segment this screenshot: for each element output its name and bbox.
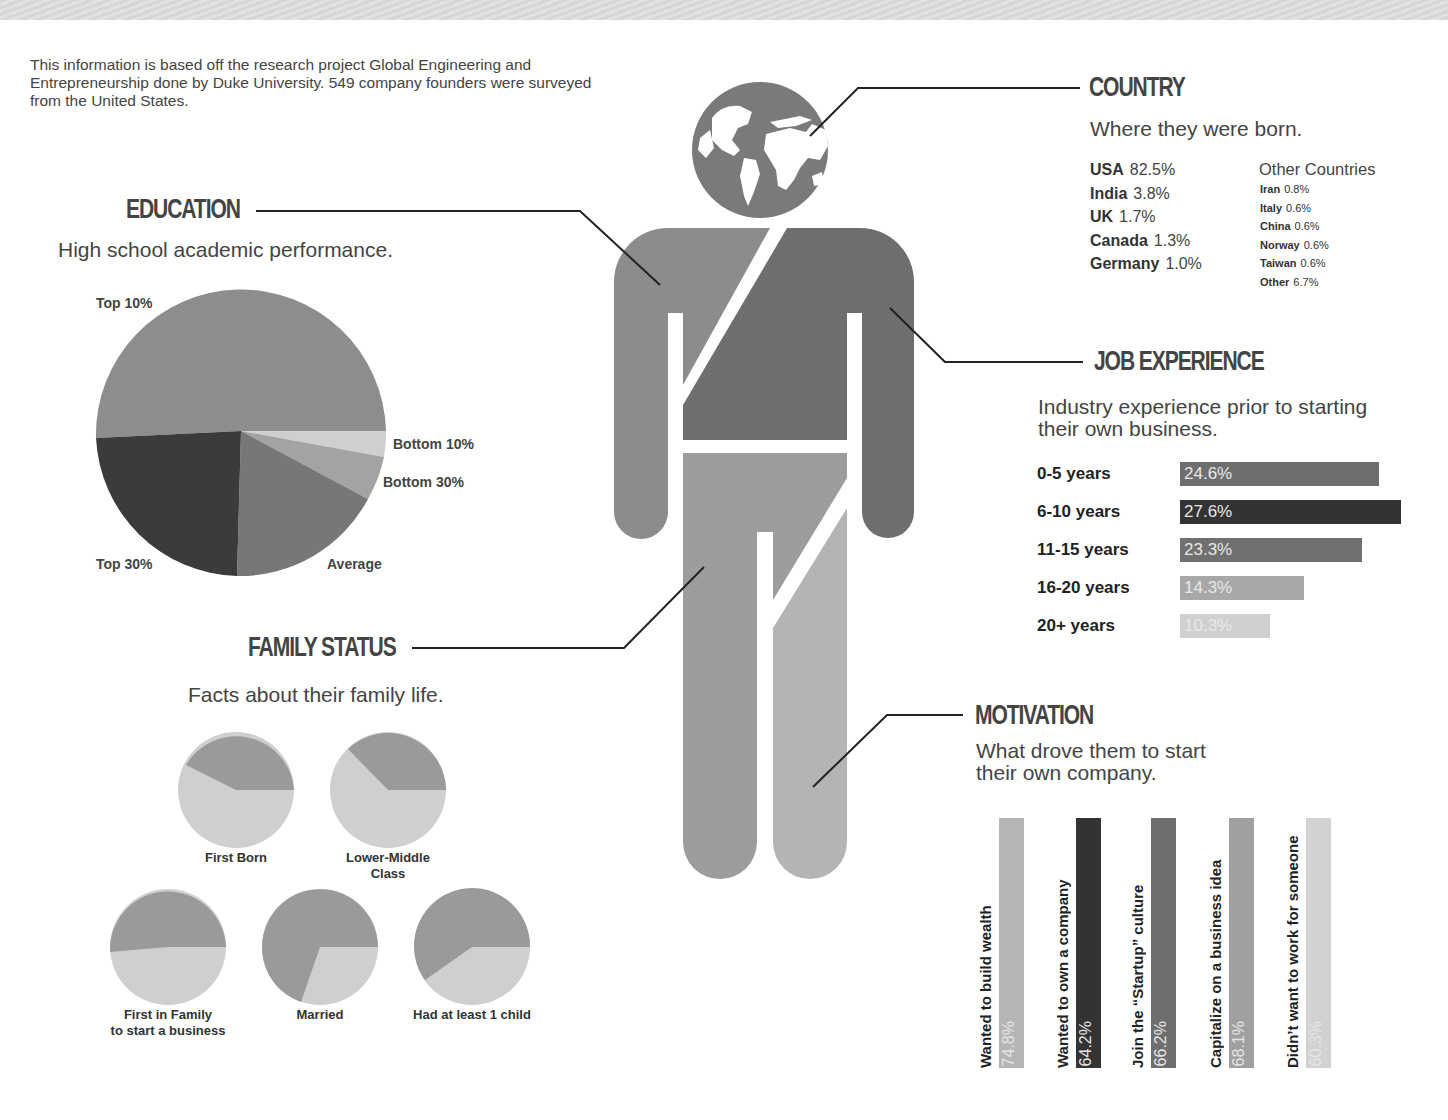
- motivation-bar-business-idea: 68.1%: [1229, 818, 1254, 1068]
- job-bar: 27.6%: [1180, 500, 1401, 524]
- subtitle-line: their own company.: [976, 762, 1206, 784]
- country-value: 6.7%: [1293, 276, 1318, 288]
- country-main-list: USA82.5% India3.8% UK1.7% Canada1.3% Ger…: [1090, 158, 1202, 276]
- country-value: 0.6%: [1295, 220, 1320, 232]
- label-line: to start a business: [98, 1023, 238, 1039]
- pie-lower-middle-class: [330, 732, 446, 848]
- country-name: Canada: [1090, 232, 1148, 249]
- job-row-label: 11-15 years: [1037, 540, 1129, 560]
- subtitle-line: Industry experience prior to starting: [1038, 396, 1367, 418]
- education-pie-chart: [96, 290, 386, 577]
- motivation-bar-wealth: 74.8%: [999, 818, 1024, 1068]
- country-row: Iran0.8%: [1260, 180, 1329, 199]
- country-name: Taiwan: [1260, 257, 1296, 269]
- job-bar-value: 14.3%: [1184, 578, 1232, 598]
- motivation-bar-own-company: 64.2%: [1076, 818, 1101, 1068]
- motivation-bar-value: 68.1%: [1230, 1021, 1248, 1066]
- family-label-lower-middle: Lower-Middle Class: [318, 850, 458, 882]
- motivation-bar-startup-culture: 66.2%: [1151, 818, 1176, 1068]
- motivation-heading: MOTIVATION: [975, 700, 1093, 731]
- motivation-bar-value: 66.2%: [1152, 1021, 1170, 1066]
- country-row: Canada1.3%: [1090, 229, 1202, 253]
- country-value: 1.3%: [1154, 232, 1190, 249]
- motivation-label: Didn’t want to work for someone: [1284, 818, 1301, 1068]
- country-name: UK: [1090, 208, 1113, 225]
- motivation-bar-value: 60.3%: [1307, 1021, 1325, 1066]
- motivation-subtitle: What drove them to start their own compa…: [976, 740, 1206, 784]
- country-heading: COUNTRY: [1089, 72, 1185, 103]
- family-label-first-in-family: First in Family to start a business: [98, 1007, 238, 1039]
- motivation-bar-value: 64.2%: [1077, 1021, 1095, 1066]
- job-bar-value: 27.6%: [1184, 502, 1232, 522]
- country-name: China: [1260, 220, 1291, 232]
- job-bar: 23.3%: [1180, 538, 1362, 562]
- motivation-label: Wanted to own a company: [1054, 818, 1071, 1068]
- motivation-label: Join the “Startup” culture: [1129, 818, 1146, 1068]
- country-value: 0.6%: [1286, 202, 1311, 214]
- country-value: 3.8%: [1133, 185, 1169, 202]
- country-name: Italy: [1260, 202, 1282, 214]
- job-row-label: 6-10 years: [1037, 502, 1120, 522]
- country-row: Italy0.6%: [1260, 199, 1329, 218]
- pie-married: [262, 889, 378, 1005]
- country-name: USA: [1090, 161, 1124, 178]
- label-line: Class: [318, 866, 458, 882]
- subtitle-line: What drove them to start: [976, 740, 1206, 762]
- subtitle-line: their own business.: [1038, 418, 1367, 440]
- country-name: Other: [1260, 276, 1289, 288]
- motivation-bar-no-boss: 60.3%: [1306, 818, 1331, 1068]
- pie-label-average: Average: [327, 556, 382, 572]
- motivation-label: Capitalize on a business idea: [1207, 818, 1224, 1068]
- job-bar-value: 23.3%: [1184, 540, 1232, 560]
- job-row-label: 16-20 years: [1037, 578, 1130, 598]
- country-subtitle: Where they were born.: [1090, 118, 1302, 140]
- job-bar-value: 24.6%: [1184, 464, 1232, 484]
- country-row: UK1.7%: [1090, 205, 1202, 229]
- country-value: 1.0%: [1165, 255, 1201, 272]
- job-heading: JOB EXPERIENCE: [1094, 346, 1264, 377]
- family-label-had-child: Had at least 1 child: [400, 1007, 544, 1023]
- country-row: Germany1.0%: [1090, 252, 1202, 276]
- family-label-married: Married: [270, 1007, 370, 1023]
- country-name: Norway: [1260, 239, 1300, 251]
- country-connector: [810, 88, 1080, 136]
- education-subtitle: High school academic performance.: [58, 239, 393, 261]
- globe-icon: [692, 82, 828, 218]
- country-name: Germany: [1090, 255, 1159, 272]
- country-row: India3.8%: [1090, 182, 1202, 206]
- family-subtitle: Facts about their family life.: [188, 684, 444, 706]
- country-row: Taiwan0.6%: [1260, 254, 1329, 273]
- country-value: 0.8%: [1284, 183, 1309, 195]
- family-heading: FAMILY STATUS: [248, 632, 396, 663]
- pie-label-top30: Top 30%: [96, 556, 153, 572]
- job-bar: 14.3%: [1180, 576, 1304, 600]
- family-label-first-born: First Born: [176, 850, 296, 866]
- job-bar: 10.3%: [1180, 614, 1270, 638]
- label-line: First in Family: [98, 1007, 238, 1023]
- job-row-label: 20+ years: [1037, 616, 1115, 636]
- label-line: Lower-Middle: [318, 850, 458, 866]
- pie-had-child: [414, 888, 530, 1005]
- country-row: Other6.7%: [1260, 273, 1329, 292]
- education-heading: EDUCATION: [126, 194, 240, 225]
- other-countries-title: Other Countries: [1259, 160, 1375, 179]
- job-bar: 24.6%: [1180, 462, 1379, 486]
- country-name: Iran: [1260, 183, 1280, 195]
- job-row-label: 0-5 years: [1037, 464, 1111, 484]
- job-subtitle: Industry experience prior to starting th…: [1038, 396, 1367, 440]
- pie-first-in-family: [110, 889, 226, 1005]
- country-value: 0.6%: [1304, 239, 1329, 251]
- country-row: China0.6%: [1260, 217, 1329, 236]
- pie-label-bottom10: Bottom 10%: [393, 436, 474, 452]
- pie-first-born: [178, 732, 294, 848]
- country-value: 82.5%: [1130, 161, 1175, 178]
- person-figure: [600, 220, 930, 880]
- country-row: USA82.5%: [1090, 158, 1202, 182]
- country-row: Norway0.6%: [1260, 236, 1329, 255]
- country-name: India: [1090, 185, 1127, 202]
- motivation-bar-value: 74.8%: [1000, 1021, 1018, 1066]
- pie-label-bottom30: Bottom 30%: [383, 474, 464, 490]
- country-value: 0.6%: [1300, 257, 1325, 269]
- pie-label-top10: Top 10%: [96, 295, 153, 311]
- job-bar-value: 10.3%: [1184, 616, 1232, 636]
